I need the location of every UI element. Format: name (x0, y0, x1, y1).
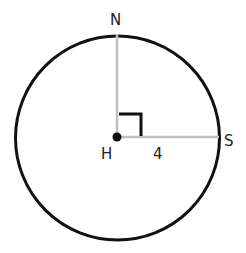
label-n: N (110, 11, 121, 29)
label-h: H (101, 145, 112, 163)
label-radius-length: 4 (153, 145, 163, 163)
circle-diagram: N S H 4 (0, 0, 246, 253)
label-s: S (224, 132, 234, 150)
right-angle-marker (119, 114, 141, 136)
center-point-h (113, 133, 122, 142)
